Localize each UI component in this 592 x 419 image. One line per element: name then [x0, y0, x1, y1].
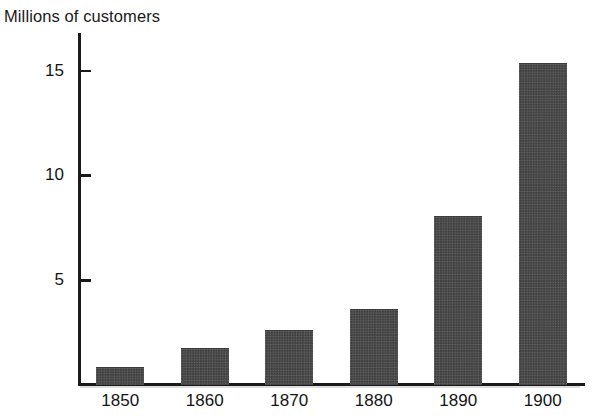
bar-1900: [519, 63, 567, 385]
baseline-shadow: [80, 386, 580, 388]
x-axis-tick-label-1860: 1860: [163, 391, 248, 410]
x-axis-tick-label-1880: 1880: [332, 391, 417, 410]
y-axis-title: Millions of customers: [4, 6, 160, 26]
bar-1860: [181, 348, 229, 385]
bar-1880: [350, 309, 398, 385]
x-axis-tick-label-1900: 1900: [501, 391, 586, 410]
bar-1890: [434, 216, 482, 385]
bar-chart: Millions of customers 15105 185018601870…: [0, 0, 592, 419]
bar-1850: [96, 367, 144, 385]
x-axis-tick-label-1870: 1870: [247, 391, 332, 410]
bar-1870: [265, 330, 313, 385]
bar-series: [78, 33, 585, 385]
y-axis-tick-label: 10: [18, 166, 64, 183]
x-axis-tick-label-1890: 1890: [416, 391, 501, 410]
y-axis-tick-label: 5: [18, 271, 64, 288]
y-axis-tick-label: 15: [18, 62, 64, 79]
x-axis-tick-label-1850: 1850: [78, 391, 163, 410]
plot-area: [78, 33, 585, 385]
